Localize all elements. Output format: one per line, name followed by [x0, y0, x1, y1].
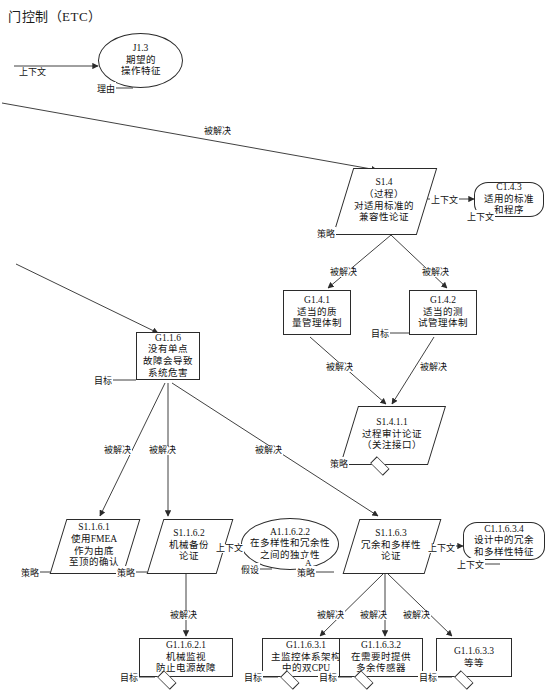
edge-layer: [0, 0, 548, 693]
node-s1163-id: S1.1.6.3: [351, 528, 431, 540]
node-g141-line2: 量管理体制: [292, 318, 342, 330]
node-s14-line2: 对适用标准的: [343, 201, 425, 213]
edge-solvedby-g11633: [388, 574, 452, 636]
edge-label-solvedby-s1411-a: 被解决: [325, 363, 354, 372]
node-s1163-marker: 策略: [296, 566, 316, 579]
edge-label-solvedby-s14: 被解决: [203, 127, 232, 136]
edge-solvedby-g141: [328, 235, 391, 288]
node-s1162-line2: 论证: [155, 551, 223, 563]
undeveloped-diamond-g11633: [452, 673, 474, 684]
node-c143-id: C1.4.3: [496, 182, 521, 194]
edge-label-solvedby-g11633: 被解决: [402, 611, 431, 620]
node-g11621[interactable]: G1.1.6.2.1 机械监视 防止电源故障: [139, 638, 233, 677]
node-g11632-line1: 在需要时提供: [351, 652, 411, 664]
edge-solvedby-g142: [391, 235, 447, 288]
node-s14-line3: 兼容性论证: [343, 212, 425, 224]
node-s14[interactable]: S1.4 （过程） 对适用标准的 兼容性论证: [343, 168, 425, 233]
node-a11622-id: A1.1.6.2.2: [270, 527, 310, 539]
edge-label-solvedby-s1161: 被解决: [103, 446, 132, 455]
node-s1163-line1: 冗余和多样性: [351, 540, 431, 552]
node-s14-marker: 策略: [316, 227, 336, 240]
undeveloped-diamond-s1411: [368, 459, 390, 470]
node-g142-line1: 适当的测: [423, 307, 463, 319]
node-c143-marker: 上下文: [466, 210, 495, 223]
node-j13[interactable]: J1.3 期望的 操作特征: [98, 33, 183, 88]
edge-label-solvedby-g141: 被解决: [329, 268, 358, 277]
node-s1162[interactable]: S1.1.6.2 机械备份 论证: [155, 519, 223, 572]
node-c11634-id: C1.1.6.3.4: [484, 524, 524, 536]
node-s1163[interactable]: S1.1.6.3 冗余和多样性 论证: [351, 519, 431, 572]
node-c11634-marker: 上下文: [456, 558, 485, 571]
node-g11632[interactable]: G1.1.6.3.2 在需要时提供 多余传感器: [339, 638, 423, 677]
node-c11634-line2: 和多样性特征: [474, 547, 534, 559]
undeveloped-diamond-g11621: [155, 673, 177, 684]
edge-label-solvedby-g142: 被解决: [421, 268, 450, 277]
node-s1161-line2: 作为由底: [58, 546, 130, 558]
edge-label-solvedby-g11632: 被解决: [359, 611, 388, 620]
edge-solvedby-g11631: [320, 574, 383, 636]
edge-label-solvedby-g11631: 被解决: [316, 611, 345, 620]
node-g116[interactable]: G1.1.6 没有单点 故障会导致 系统危害: [136, 332, 200, 380]
node-g11633[interactable]: G1.1.6.3.3 等等: [436, 638, 512, 677]
node-g141-line1: 适当的质: [297, 307, 337, 319]
node-g11633-marker: 目标: [418, 671, 438, 684]
node-s1163-line2: 论证: [351, 551, 431, 563]
node-g11633-line1: 等等: [464, 658, 484, 670]
node-g11633-id: G1.1.6.3.3: [454, 646, 494, 658]
node-g142[interactable]: G1.4.2 适当的测 试管理体制: [409, 290, 477, 335]
node-s14-line1: （过程）: [343, 189, 425, 201]
edge-label-solvedby-s1411-b: 被解决: [419, 363, 448, 372]
node-c143-line2: 和程序: [494, 205, 524, 217]
diagram-canvas: 门控制（ETC）: [0, 0, 548, 693]
node-g142-line2: 试管理体制: [418, 318, 468, 330]
node-g11631-marker: 目标: [243, 671, 263, 684]
edge-label-context-j13: 上下文: [18, 68, 47, 77]
edge-label-context-c143: 上下文: [430, 196, 459, 205]
node-g116-marker: 目标: [93, 374, 113, 387]
node-g11631-id: G1.1.6.3.1: [286, 640, 326, 652]
node-s1161-marker: 策略: [20, 566, 40, 579]
node-s1162-id: S1.1.6.2: [155, 528, 223, 540]
node-j13-marker: 理由: [96, 82, 116, 95]
node-g11632-id: G1.1.6.3.2: [361, 640, 401, 652]
node-g11621-marker: 目标: [119, 671, 139, 684]
node-c11634-line1: 设计中的冗余: [474, 535, 534, 547]
node-g116-line1: 没有单点: [148, 344, 188, 356]
node-g11621-id: G1.1.6.2.1: [166, 640, 206, 652]
node-a11622-line1: 在多样性和冗余性: [250, 538, 330, 550]
node-s1411-id: S1.4.1.1: [349, 417, 435, 429]
node-g11621-line1: 机械监视: [166, 652, 206, 664]
node-g142-id: G1.4.2: [430, 295, 456, 307]
edge-label-solvedby-s1162: 被解决: [148, 446, 177, 455]
node-s1411-line2: （关注接口）: [349, 440, 435, 452]
node-a11622-marker: 假设: [240, 563, 260, 576]
node-s1411-marker: 策略: [329, 457, 349, 470]
node-s1161-id: S1.1.6.1: [58, 522, 130, 534]
node-g11632-marker: 目标: [318, 671, 338, 684]
node-s1162-line1: 机械备份: [155, 540, 223, 552]
node-g141-id: G1.4.1: [304, 295, 330, 307]
node-j13-line1: 期望的: [126, 55, 156, 67]
node-c11634[interactable]: C1.1.6.3.4 设计中的冗余 和多样性特征: [463, 522, 545, 560]
node-g116-line3: 系统危害: [148, 368, 188, 380]
node-g141[interactable]: G1.4.1 适当的质 量管理体制: [283, 290, 351, 335]
node-g142-marker: 目标: [370, 327, 390, 340]
undeveloped-diamond-g11632: [352, 673, 374, 684]
node-s1161[interactable]: S1.1.6.1 使用FMEA 作为由底 至顶的确认: [58, 519, 130, 572]
undeveloped-diamond-g11631: [278, 673, 300, 684]
node-g11631-line1: 主监控体系架构: [271, 652, 341, 664]
edge-solvedby-s14: [2, 103, 377, 170]
edge-label-solvedby-s1163: 被解决: [254, 446, 283, 455]
node-s1161-line1: 使用FMEA: [58, 534, 130, 546]
node-g116-id: G1.1.6: [155, 333, 181, 345]
edge-solvedby-g116: [16, 264, 158, 333]
edge-label-context-c11634: 上下文: [427, 544, 456, 553]
node-j13-id: J1.3: [133, 43, 149, 55]
node-s1411[interactable]: S1.4.1.1 过程审计论证 （关注接口）: [349, 406, 435, 463]
node-g116-line2: 故障会导致: [143, 356, 193, 368]
node-s1161-line3: 至顶的确认: [58, 557, 130, 569]
node-s1411-line1: 过程审计论证: [349, 429, 435, 441]
node-j13-line2: 操作特征: [121, 66, 161, 78]
node-s14-id: S1.4: [343, 177, 425, 189]
node-c143-line1: 适用的标准: [484, 194, 534, 206]
